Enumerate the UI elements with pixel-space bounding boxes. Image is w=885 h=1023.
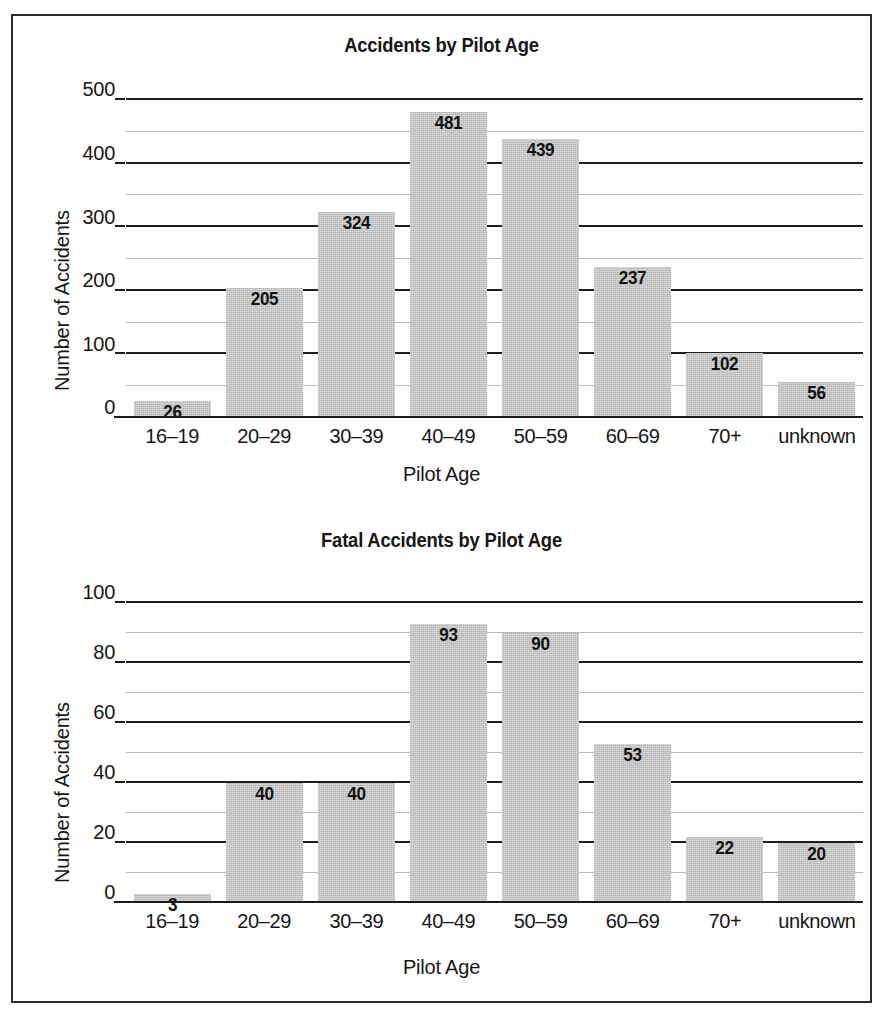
bar-value-label: 237 (598, 267, 667, 289)
bar-value-label: 439 (506, 139, 575, 161)
y-tick-label: 300 (83, 205, 115, 228)
bar-column[interactable]: 9340–49 (410, 603, 487, 903)
y-tick-mark (115, 162, 125, 164)
plot-area: 020406080100 316–194020–294030–399340–49… (126, 603, 863, 903)
bar-value-label: 205 (230, 288, 299, 310)
bar-column[interactable]: 9050–59 (502, 603, 579, 903)
y-tick-label: 80 (93, 641, 115, 664)
bar-value-label: 90 (506, 633, 575, 655)
chart-fatal-accidents-by-pilot-age: Fatal Accidents by Pilot Age Number of A… (13, 511, 870, 991)
y-tick-mark (115, 721, 125, 723)
chart-title: Accidents by Pilot Age (47, 34, 835, 57)
x-tick-label: 70+ (677, 425, 772, 448)
bar-column[interactable]: 20unknown (778, 603, 855, 903)
x-tick-label: 40–49 (401, 910, 496, 933)
bar-value-label: 40 (230, 783, 299, 805)
bar-value-label: 324 (322, 212, 391, 234)
y-tick-mark (115, 98, 125, 100)
plot-area: 0100200300400500 2616–1920520–2932430–39… (126, 100, 863, 418)
bar[interactable] (502, 633, 579, 903)
y-tick-label: 40 (93, 761, 115, 784)
bar-column[interactable]: 10270+ (686, 100, 763, 418)
bar-column[interactable]: 2270+ (686, 603, 763, 903)
x-tick-label: 30–39 (309, 425, 404, 448)
y-tick-mark (115, 601, 125, 603)
y-tick-label: 100 (83, 332, 115, 355)
bar-column[interactable]: 43950–59 (502, 100, 579, 418)
bar-column[interactable]: 23760–69 (594, 100, 671, 418)
x-axis-title: Pilot Age (13, 463, 870, 486)
bar-value-label: 481 (414, 112, 483, 134)
bar-column[interactable]: 20520–29 (226, 100, 303, 418)
bar-series: 2616–1920520–2932430–3948140–4943950–592… (126, 100, 863, 418)
x-tick-label: 60–69 (585, 425, 680, 448)
bar-column[interactable]: 56unknown (778, 100, 855, 418)
x-tick-label: 30–39 (309, 910, 404, 933)
bar-column[interactable]: 5360–69 (594, 603, 671, 903)
bar-value-label: 53 (598, 744, 667, 766)
y-axis-title: Number of Accidents (51, 210, 74, 391)
y-tick-mark (115, 661, 125, 663)
bar-value-label: 20 (782, 843, 851, 865)
bar-value-label: 40 (322, 783, 391, 805)
x-axis-line (114, 416, 863, 418)
figure-border: Accidents by Pilot Age Number of Acciden… (11, 14, 872, 1003)
x-tick-label: 40–49 (401, 425, 496, 448)
x-tick-label: 70+ (677, 910, 772, 933)
bar[interactable] (318, 212, 395, 418)
y-tick-mark (115, 781, 125, 783)
x-tick-label: 50–59 (493, 425, 588, 448)
x-tick-label: 60–69 (585, 910, 680, 933)
bar-value-label: 102 (690, 353, 759, 375)
y-tick-label: 200 (83, 269, 115, 292)
y-tick-label: 500 (83, 78, 115, 101)
x-axis-line (114, 901, 863, 903)
y-tick-mark (115, 841, 125, 843)
bar[interactable] (410, 112, 487, 418)
bar[interactable] (594, 744, 671, 903)
y-tick-mark (115, 289, 125, 291)
x-tick-label: unknown (769, 910, 864, 933)
bar-column[interactable]: 2616–19 (134, 100, 211, 418)
x-tick-label: 16–19 (125, 425, 220, 448)
y-tick-mark (115, 225, 125, 227)
bar-value-label: 56 (782, 382, 851, 404)
x-tick-label: unknown (769, 425, 864, 448)
x-tick-label: 20–29 (217, 910, 312, 933)
x-tick-label: 50–59 (493, 910, 588, 933)
bar-column[interactable]: 316–19 (134, 603, 211, 903)
x-tick-label: 16–19 (125, 910, 220, 933)
bar-value-label: 26 (137, 401, 206, 423)
y-axis-title: Number of Accidents (51, 702, 74, 883)
x-tick-label: 20–29 (217, 425, 312, 448)
bar-column[interactable]: 32430–39 (318, 100, 395, 418)
bar[interactable] (594, 267, 671, 418)
y-tick-label: 400 (83, 142, 115, 165)
bar-value-label: 93 (414, 624, 483, 646)
chart-accidents-by-pilot-age: Accidents by Pilot Age Number of Acciden… (13, 16, 870, 496)
x-axis-title: Pilot Age (13, 956, 870, 979)
y-tick-label: 60 (93, 701, 115, 724)
bar-column[interactable]: 48140–49 (410, 100, 487, 418)
bar-column[interactable]: 4030–39 (318, 603, 395, 903)
bar-series: 316–194020–294030–399340–499050–595360–6… (126, 603, 863, 903)
bar-value-label: 22 (690, 837, 759, 859)
y-tick-label: 20 (93, 821, 115, 844)
chart-title: Fatal Accidents by Pilot Age (47, 529, 835, 552)
y-tick-mark (115, 352, 125, 354)
y-tick-label: 100 (83, 581, 115, 604)
bar-column[interactable]: 4020–29 (226, 603, 303, 903)
bar[interactable] (502, 139, 579, 418)
bar[interactable] (410, 624, 487, 903)
